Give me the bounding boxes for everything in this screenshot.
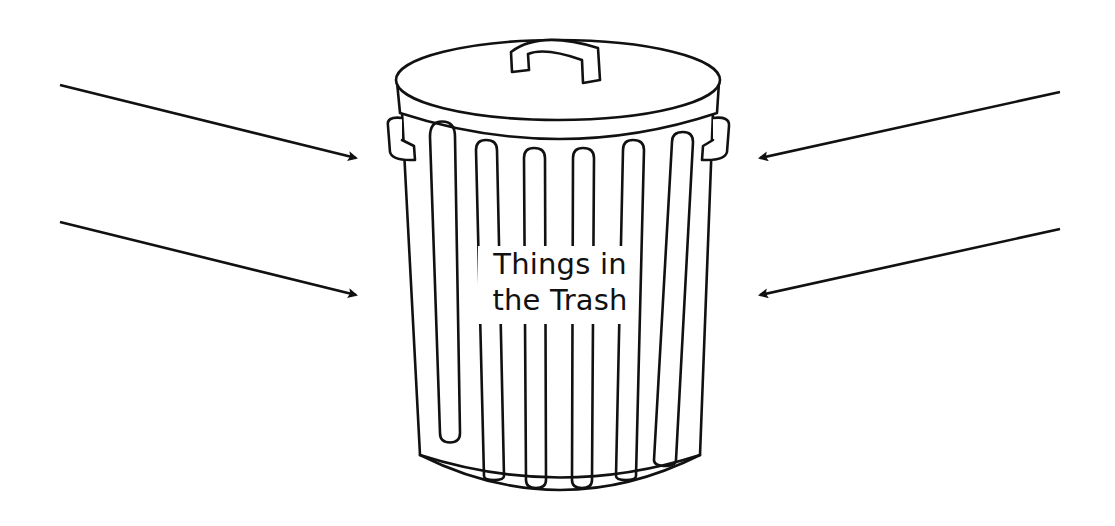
- diagram-title: Things in the Trash: [440, 246, 680, 318]
- arrow-bottom-right: [760, 229, 1060, 295]
- arrow-bottom-left: [60, 222, 356, 295]
- arrow-top-left: [60, 85, 356, 158]
- graphic-organizer: Things in the Trash: [0, 0, 1115, 526]
- title-line-2: the Trash: [440, 282, 680, 318]
- title-line-1: Things in: [440, 246, 680, 282]
- arrow-top-right: [760, 92, 1060, 158]
